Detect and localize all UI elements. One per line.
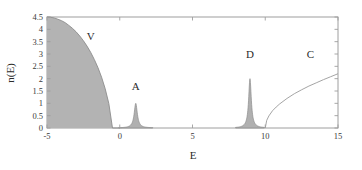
y-tick-label: 0.5 [32,111,43,121]
x-tick-label: 10 [261,131,270,141]
y-tick-label: 4 [39,24,44,34]
y-tick-label: 4.5 [32,12,43,22]
annotation-label-d: D [246,48,254,60]
x-tick-label: -5 [43,131,50,141]
y-tick-label: 2.5 [32,61,43,71]
x-tick-label: 0 [118,131,122,141]
x-axis-tick-labels: -5051015 [43,131,342,141]
y-tick-label: 1 [39,98,43,108]
density-of-states-chart: -5051015 00.511.522.533.544.5 VADC E n(E… [0,0,362,170]
annotation-label-a: A [132,80,140,92]
y-tick-label: 3 [39,49,43,59]
y-tick-label: 2 [39,74,43,84]
y-axis-tick-labels: 00.511.522.533.544.5 [32,12,43,133]
y-axis-title: n(E) [4,63,17,83]
chart-figure: -5051015 00.511.522.533.544.5 VADC E n(E… [0,0,362,170]
y-tick-label: 1.5 [32,86,43,96]
annotation-label-c: C [307,48,314,60]
x-tick-label: 5 [190,131,194,141]
y-tick-label: 0 [39,123,43,133]
x-tick-label: 15 [334,131,343,141]
annotation-label-v: V [87,30,95,42]
y-tick-label: 3.5 [32,37,43,47]
x-axis-title: E [190,149,197,161]
